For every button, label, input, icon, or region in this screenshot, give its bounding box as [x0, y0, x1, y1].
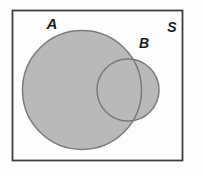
set-b-label: B [139, 35, 149, 51]
venn-diagram-canvas: A B S [0, 0, 203, 176]
set-a-label: A [46, 15, 58, 32]
universal-set-label: S [167, 19, 177, 35]
venn-diagram: A B S [0, 0, 203, 176]
